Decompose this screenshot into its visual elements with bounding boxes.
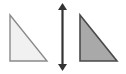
arrow-head-up [58,3,67,10]
figure-canvas [0,0,126,74]
vertical-double-arrow[interactable] [58,3,67,71]
figure-svg [0,0,126,74]
left-triangle[interactable] [10,15,47,61]
right-triangle[interactable] [80,15,117,61]
arrow-head-down [58,64,67,71]
